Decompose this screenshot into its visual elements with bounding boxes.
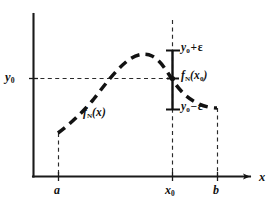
annotation-curve-fn-x: fN(x) xyxy=(83,107,106,120)
label-y0-sub: 0 xyxy=(11,76,15,85)
tick-label-a: a xyxy=(54,184,60,196)
tick-label-a-text: a xyxy=(54,183,60,197)
annotation-fn-x0: fN(x0) xyxy=(181,70,207,83)
tick-label-b-text: b xyxy=(213,183,219,197)
axis-label-x-text: x xyxy=(259,170,265,184)
axis-label-y0: y0 xyxy=(5,71,15,84)
label-y0-plus-op: + xyxy=(190,41,198,53)
annotation-y0-plus-epsilon: y0+ε xyxy=(181,42,203,55)
tick-label-b: b xyxy=(213,184,219,196)
axis-label-x: x xyxy=(259,171,265,184)
tick-label-x0: x0 xyxy=(165,184,175,197)
label-fn-x0-close: ) xyxy=(203,69,207,81)
label-y0-minus-op: − xyxy=(190,100,198,112)
label-fn-x-close: ) xyxy=(102,106,106,118)
annotation-y0-minus-epsilon: y0−ε xyxy=(181,101,203,114)
label-y0-plus-epsilon: ε xyxy=(198,41,203,53)
figure-container: y0 y0+ε fN(x0) y0−ε fN(x) a x0 b x xyxy=(0,0,280,213)
curve-fn-x xyxy=(58,54,217,133)
tick-label-x0-sub: 0 xyxy=(171,189,175,198)
point-fn-x0 xyxy=(170,76,175,81)
label-y0-minus-epsilon: ε xyxy=(198,100,203,112)
figure-canvas xyxy=(0,0,280,213)
